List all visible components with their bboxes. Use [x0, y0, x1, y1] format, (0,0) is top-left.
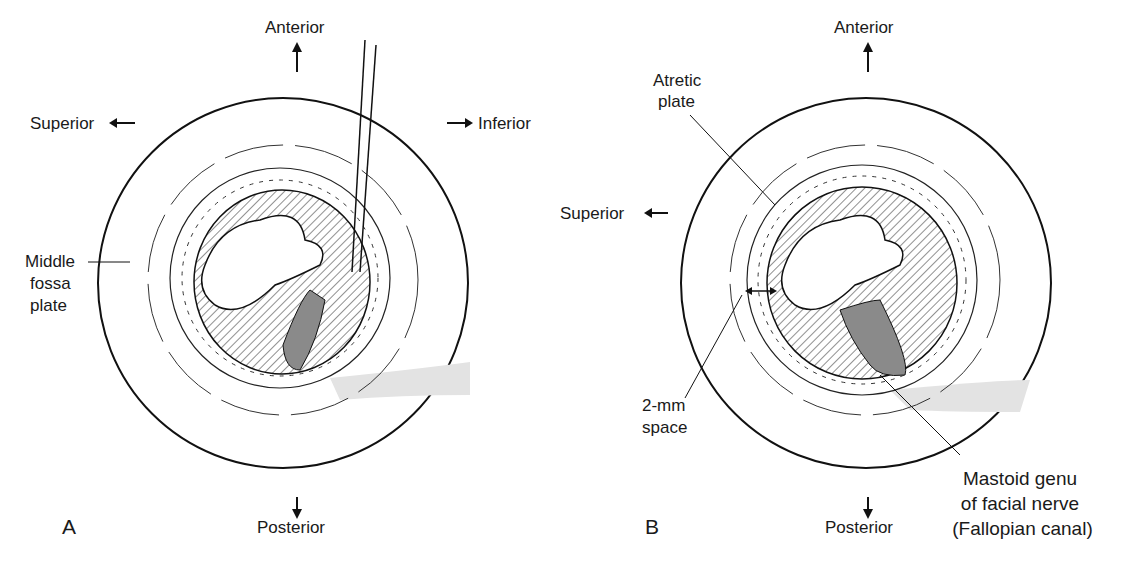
label-atretic-line2: plate — [658, 92, 695, 112]
label-space-line2: space — [642, 418, 687, 438]
label-middle-fossa-line1: Middle — [25, 252, 75, 272]
panel-b-drawing — [644, 42, 1051, 519]
label-a-anterior: Anterior — [265, 18, 325, 38]
label-a-posterior: Posterior — [257, 518, 325, 538]
label-b-superior: Superior — [560, 204, 624, 224]
panel-letter-a: A — [62, 515, 76, 539]
label-atretic-line1: Atretic — [653, 71, 701, 91]
label-middle-fossa-line2: fossa — [30, 274, 71, 294]
label-b-posterior: Posterior — [825, 518, 893, 538]
panel-a-drawing — [88, 40, 473, 519]
label-mastoid-line1: Mastoid genu — [920, 466, 1120, 491]
label-a-inferior: Inferior — [478, 114, 531, 134]
label-a-superior: Superior — [30, 114, 94, 134]
label-space-line1: 2-mm — [642, 396, 685, 416]
label-middle-fossa-line3: plate — [30, 296, 67, 316]
label-mastoid-line3: (Fallopian canal) — [915, 516, 1130, 541]
label-b-anterior: Anterior — [834, 18, 894, 38]
panel-letter-b: B — [645, 515, 659, 539]
label-mastoid-line2: of facial nerve — [920, 491, 1120, 516]
